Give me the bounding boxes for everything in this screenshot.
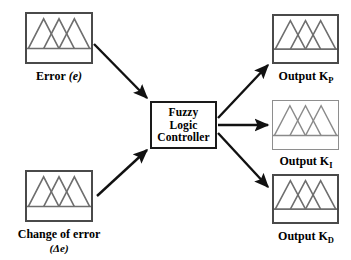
fuzzy-controller-diagram: Error (e) Change of error (Δe) Fuzzy Log…: [0, 0, 351, 260]
arrow-change-of-error-to-controller: [97, 150, 147, 196]
caption-output-kd-sub: D: [328, 235, 334, 245]
caption-change-of-error-paren: (Δe): [7, 242, 111, 256]
caption-output-kd: Output KD: [268, 229, 344, 246]
caption-output-kp-main: Output K: [279, 69, 329, 83]
caption-change-of-error-main: Change of error: [7, 227, 111, 242]
membership-plot-output-kd: [272, 174, 339, 224]
caption-output-ki-main: Output K: [280, 154, 330, 168]
membership-curves-output-ki: [273, 101, 338, 149]
caption-output-kd-main: Output K: [278, 229, 328, 243]
arrow-controller-to-output-kp: [218, 65, 268, 118]
controller-line-1: Fuzzy: [169, 106, 199, 119]
controller-line-2: Logic: [170, 119, 198, 132]
caption-error-main: Error: [36, 69, 66, 83]
membership-curves-error: [27, 14, 91, 62]
arrow-controller-to-output-kd: [218, 133, 268, 187]
membership-plot-error: [25, 12, 93, 64]
caption-error: Error (e): [25, 69, 93, 84]
caption-change-of-error: Change of error (Δe): [7, 227, 111, 256]
caption-output-kp-sub: P: [328, 75, 333, 85]
caption-output-ki: Output KI: [268, 154, 344, 171]
arrow-error-to-controller: [94, 44, 147, 98]
caption-output-kp: Output KP: [268, 69, 344, 86]
membership-curves-output-kd: [274, 176, 337, 222]
caption-output-ki-sub: I: [329, 160, 332, 170]
membership-curves-output-kp: [274, 16, 337, 62]
membership-plot-output-ki: [272, 100, 339, 150]
caption-error-paren: (e): [69, 69, 82, 83]
controller-line-3: Controller: [157, 131, 210, 144]
membership-plot-output-kp: [272, 14, 339, 64]
membership-curves-change-of-error: [27, 172, 91, 220]
membership-plot-change-of-error: [25, 170, 93, 222]
fuzzy-logic-controller-block[interactable]: Fuzzy Logic Controller: [150, 101, 217, 149]
